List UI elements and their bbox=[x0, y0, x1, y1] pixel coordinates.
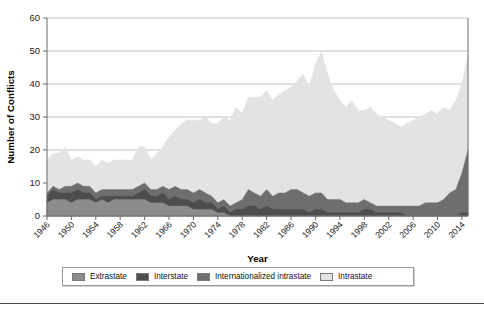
xtick-label-1974: 1974 bbox=[202, 219, 223, 240]
legend-item-label: Interstate bbox=[154, 272, 188, 281]
xtick-label-1946: 1946 bbox=[31, 219, 52, 240]
xtick-label-1950: 1950 bbox=[56, 219, 77, 240]
xtick-label-1954: 1954 bbox=[80, 219, 101, 240]
xtick-label-1966: 1966 bbox=[153, 219, 174, 240]
xtick-label-2002: 2002 bbox=[373, 219, 394, 240]
ytick-label-40: 40 bbox=[29, 78, 40, 89]
legend-item-interstate[interactable]: Interstate bbox=[136, 272, 188, 281]
x-axis-title: Year bbox=[247, 253, 268, 264]
xtick-label-1978: 1978 bbox=[227, 219, 248, 240]
legend-swatch-icon bbox=[197, 273, 210, 281]
xtick-label-1982: 1982 bbox=[251, 219, 272, 240]
y-axis-title: Number of Conflicts bbox=[5, 70, 16, 164]
legend-swatch-icon bbox=[320, 273, 333, 281]
xtick-label-1994: 1994 bbox=[324, 219, 345, 240]
stacked-area-chart: 0102030405060194619501954195819621966197… bbox=[0, 0, 484, 311]
xtick-label-1998: 1998 bbox=[349, 219, 370, 240]
ytick-label-10: 10 bbox=[29, 177, 40, 188]
xtick-label-2014: 2014 bbox=[446, 219, 467, 240]
legend-item-internationalized-intrastate[interactable]: Internationalized intrastate bbox=[197, 272, 311, 281]
legend-item-extrastate[interactable]: Extrastate bbox=[72, 272, 127, 281]
ytick-label-0: 0 bbox=[35, 210, 40, 221]
footer-divider bbox=[0, 303, 484, 304]
chart-legend: ExtrastateInterstateInternationalized in… bbox=[62, 267, 414, 286]
legend-swatch-icon bbox=[136, 273, 149, 281]
xtick-label-1986: 1986 bbox=[275, 219, 296, 240]
xtick-label-2010: 2010 bbox=[422, 219, 443, 240]
ytick-label-30: 30 bbox=[29, 111, 40, 122]
ytick-label-20: 20 bbox=[29, 144, 40, 155]
xtick-label-1990: 1990 bbox=[300, 219, 321, 240]
legend-item-label: Internationalized intrastate bbox=[215, 272, 311, 281]
legend-item-label: Extrastate bbox=[90, 272, 127, 281]
legend-item-intrastate[interactable]: Intrastate bbox=[320, 272, 372, 281]
xtick-label-2006: 2006 bbox=[397, 219, 418, 240]
ytick-label-60: 60 bbox=[29, 12, 40, 23]
xtick-label-1958: 1958 bbox=[105, 219, 126, 240]
xtick-label-1970: 1970 bbox=[178, 219, 199, 240]
xtick-label-1962: 1962 bbox=[129, 219, 150, 240]
legend-item-label: Intrastate bbox=[338, 272, 372, 281]
legend-swatch-icon bbox=[72, 273, 85, 281]
chart-figure: 0102030405060194619501954195819621966197… bbox=[0, 0, 484, 311]
ytick-label-50: 50 bbox=[29, 45, 40, 56]
